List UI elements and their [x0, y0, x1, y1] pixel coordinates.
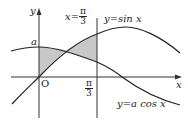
- vertical-line-lhs: x=: [65, 12, 79, 22]
- pi-over-3-tick-label: π 3: [85, 79, 93, 98]
- cos-curve-label: y=a cos x: [117, 99, 166, 109]
- pi-over-3-fraction: π 3: [79, 7, 87, 26]
- tick-fraction: π 3: [85, 79, 93, 98]
- y-axis-arrow: [37, 8, 42, 15]
- a-label: a: [31, 37, 37, 47]
- sin-curve-label: y=sin x: [104, 14, 142, 24]
- tick-denominator: 3: [86, 89, 92, 98]
- vertical-line-label: x= π 3: [65, 7, 87, 26]
- y-axis-label: y: [30, 6, 36, 16]
- x-axis-label: x: [176, 80, 182, 90]
- fraction-denominator: 3: [80, 17, 86, 26]
- origin-label: O: [41, 79, 49, 89]
